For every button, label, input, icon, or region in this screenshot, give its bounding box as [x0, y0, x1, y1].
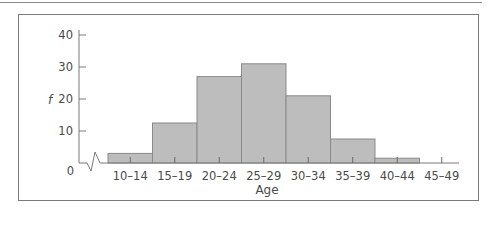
- histogram-bar: [242, 64, 287, 163]
- x-axis-label: Age: [255, 183, 278, 197]
- y-tick-label: 10: [58, 124, 73, 138]
- histogram-bar: [286, 96, 331, 163]
- y-tick-label: 40: [58, 28, 73, 42]
- x-tick-label: 45–49: [424, 169, 459, 183]
- histogram-chart: 010203040 10–1415–1920–2425–2930–3435–39…: [0, 0, 499, 227]
- y-tick-label: 30: [58, 60, 73, 74]
- x-tick-label: 10–14: [113, 169, 148, 183]
- y-tick-label: 0: [67, 164, 74, 178]
- x-tick-label: 20–24: [202, 169, 237, 183]
- x-tick-label: 35–39: [335, 169, 370, 183]
- bars-group: [108, 64, 420, 163]
- y-ticks-group: 010203040: [58, 28, 86, 178]
- y-tick-label: 20: [58, 92, 73, 106]
- x-tick-label: 15–19: [157, 169, 192, 183]
- x-tick-label: 30–34: [291, 169, 326, 183]
- x-tick-label: 40–44: [380, 169, 415, 183]
- histogram-bar: [197, 77, 242, 163]
- x-tick-label: 25–29: [246, 169, 281, 183]
- y-axis-label: f: [48, 93, 54, 107]
